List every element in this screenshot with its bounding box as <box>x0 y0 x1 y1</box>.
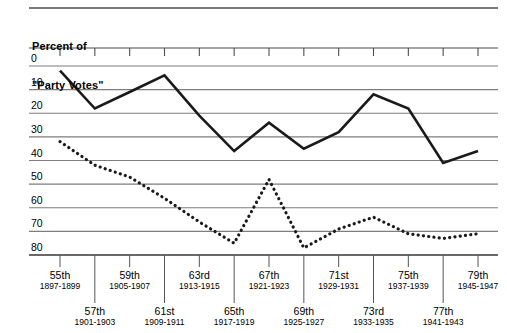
x-axis-congress-label: 71st <box>310 269 368 281</box>
y-axis-tick-label: 50 <box>31 171 43 182</box>
x-axis-category-73rd: 73rd1933-1935 <box>345 305 403 327</box>
x-axis-congress-label: 61st <box>136 305 194 317</box>
x-axis-congress-label: 75th <box>379 269 437 281</box>
x-axis-congress-label: 69th <box>275 305 333 317</box>
x-axis-category-55th: 55th1897-1899 <box>31 269 89 291</box>
x-axis-congress-label: 59th <box>101 269 159 281</box>
x-axis-category-63rd: 63rd1913-1915 <box>170 269 228 291</box>
x-axis-category-57th: 57th1901-1903 <box>66 305 124 327</box>
x-axis-years-label: 1929-1931 <box>310 281 368 291</box>
solid-series-line <box>60 71 478 163</box>
x-axis-years-label: 1905-1907 <box>101 281 159 291</box>
x-axis-category-69th: 69th1925-1927 <box>275 305 333 327</box>
x-axis-years-label: 1917-1919 <box>205 317 263 327</box>
x-axis-years-label: 1941-1943 <box>414 317 472 327</box>
y-axis-tick-label: 80 <box>31 242 43 253</box>
x-axis-years-label: 1921-1923 <box>240 281 298 291</box>
x-axis-congress-label: 55th <box>31 269 89 281</box>
x-axis-congress-label: 77th <box>414 305 472 317</box>
x-axis-category-79th: 79th1945-1947 <box>449 269 507 291</box>
x-axis-years-label: 1897-1899 <box>31 281 89 291</box>
x-axis-category-71st: 71st1929-1931 <box>310 269 368 291</box>
chart-root: Percent of "Party Votes" 807060504030201… <box>0 0 507 333</box>
y-axis-title-line1: Percent of <box>32 40 103 53</box>
x-axis-years-label: 1909-1911 <box>136 317 194 327</box>
y-axis-tick-label: 40 <box>31 148 43 159</box>
x-axis-category-65th: 65th1917-1919 <box>205 305 263 327</box>
y-axis-tick-label: 30 <box>31 124 43 135</box>
x-axis-category-59th: 59th1905-1907 <box>101 269 159 291</box>
y-axis-tick-label: 10 <box>31 77 43 88</box>
x-axis-category-67th: 67th1921-1923 <box>240 269 298 291</box>
x-axis-category-61st: 61st1909-1911 <box>136 305 194 327</box>
y-axis-tick-label: 20 <box>31 100 43 111</box>
x-axis-congress-label: 57th <box>66 305 124 317</box>
x-axis-years-label: 1901-1903 <box>66 317 124 327</box>
y-axis-tick-label: 70 <box>31 218 43 229</box>
dotted-series-line <box>60 142 478 248</box>
x-axis-congress-label: 67th <box>240 269 298 281</box>
x-axis-congress-label: 65th <box>205 305 263 317</box>
x-axis-category-77th: 77th1941-1943 <box>414 305 472 327</box>
x-axis-category-75th: 75th1937-1939 <box>379 269 437 291</box>
x-axis-years-label: 1913-1915 <box>170 281 228 291</box>
x-axis-congress-label: 63rd <box>170 269 228 281</box>
x-axis-years-label: 1937-1939 <box>379 281 437 291</box>
x-axis-years-label: 1933-1935 <box>345 317 403 327</box>
y-axis-tick-label: 60 <box>31 195 43 206</box>
x-axis-years-label: 1945-1947 <box>449 281 507 291</box>
y-axis-tick-label: 0 <box>31 53 37 64</box>
x-axis-years-label: 1925-1927 <box>275 317 333 327</box>
x-axis-congress-label: 73rd <box>345 305 403 317</box>
x-axis-congress-label: 79th <box>449 269 507 281</box>
